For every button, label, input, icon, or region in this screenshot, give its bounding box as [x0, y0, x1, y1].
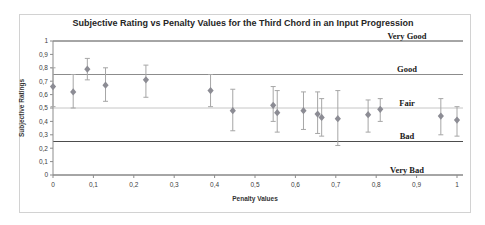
data-point-marker	[377, 106, 383, 113]
x-tick-label: 1	[455, 181, 459, 188]
x-tick-label: 0,6	[291, 181, 300, 188]
x-tick-label: 0,5	[250, 181, 259, 188]
data-point-group	[377, 99, 383, 122]
data-point-group	[143, 65, 149, 97]
data-point-group	[50, 68, 56, 107]
y-axis-title: Subjective Ratings	[18, 79, 26, 138]
data-point-group	[270, 87, 276, 122]
data-point-marker	[274, 109, 280, 116]
y-tick-label: 0,2	[39, 145, 48, 152]
y-tick-label: 0,4	[39, 118, 48, 125]
rating-band-label: Very Bad	[390, 165, 424, 175]
data-point-group	[230, 89, 236, 131]
y-tick-label: 0,7	[39, 78, 48, 85]
data-point-group	[454, 107, 460, 136]
y-tick-label: 0,8	[39, 64, 48, 71]
data-point-group	[438, 99, 444, 135]
y-tick-label: 0,3	[39, 131, 48, 138]
data-point-group	[102, 68, 108, 102]
data-point-marker	[102, 82, 108, 89]
x-tick-label: 0,9	[412, 181, 421, 188]
data-point-marker	[454, 116, 460, 123]
chart-figure: Subjective Rating vs Penalty Values for …	[0, 0, 485, 225]
x-tick-label: 0,8	[372, 181, 381, 188]
data-point-marker	[143, 76, 149, 83]
x-tick-label: 0,2	[129, 181, 138, 188]
y-tick-label: 0	[44, 171, 48, 178]
data-point-group	[335, 91, 341, 146]
data-point-group	[207, 75, 213, 107]
data-point-marker	[207, 87, 213, 94]
x-tick-label: 0,4	[210, 181, 219, 188]
data-point-group	[300, 92, 306, 130]
data-point-marker	[335, 115, 341, 122]
data-point-marker	[438, 112, 444, 119]
y-tick-label: 0,5	[39, 104, 48, 111]
y-tick-label: 0,9	[39, 51, 48, 58]
data-point-group	[365, 100, 371, 132]
x-tick-label: 0	[51, 181, 55, 188]
data-point-marker	[50, 83, 56, 90]
data-point-group	[84, 58, 90, 79]
reference-lines-layer: Very GoodGoodFairBadVery Bad	[53, 31, 463, 176]
rating-band-label: Bad	[400, 131, 415, 141]
data-point-group	[70, 75, 76, 109]
chart-border	[20, 15, 471, 213]
x-tick-label: 0,7	[331, 181, 340, 188]
chart-title: Subjective Rating vs Penalty Values for …	[72, 18, 413, 28]
rating-band-label: Good	[397, 64, 417, 74]
rating-band-label: Fair	[399, 98, 415, 108]
x-axis-title: Penalty Values	[232, 195, 278, 203]
y-tick-label: 0,1	[39, 158, 48, 165]
data-point-group	[274, 91, 280, 133]
chart-canvas: Subjective Rating vs Penalty Values for …	[0, 0, 485, 225]
data-point-group	[319, 99, 325, 137]
data-point-marker	[84, 66, 90, 73]
y-tick-label: 0,6	[39, 91, 48, 98]
data-point-marker	[70, 88, 76, 95]
data-point-marker	[365, 111, 371, 118]
x-tick-label: 0,1	[89, 181, 98, 188]
rating-band-label: Very Good	[387, 31, 426, 41]
y-tick-label: 1	[44, 37, 48, 44]
x-tick-label: 0,3	[170, 181, 179, 188]
